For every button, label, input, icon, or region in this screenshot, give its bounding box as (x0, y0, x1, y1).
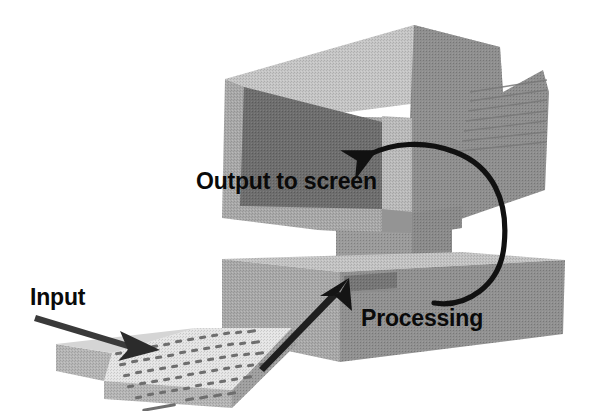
diagram-canvas: Input Output to screen Processing (0, 0, 591, 411)
computer-system-illustration (0, 0, 591, 411)
label-output-to-screen: Output to screen (196, 170, 377, 193)
label-processing: Processing (361, 307, 483, 330)
keyboard (56, 328, 296, 411)
label-input: Input (30, 286, 85, 309)
monitor-side-face (410, 25, 549, 236)
monitor (222, 25, 549, 262)
